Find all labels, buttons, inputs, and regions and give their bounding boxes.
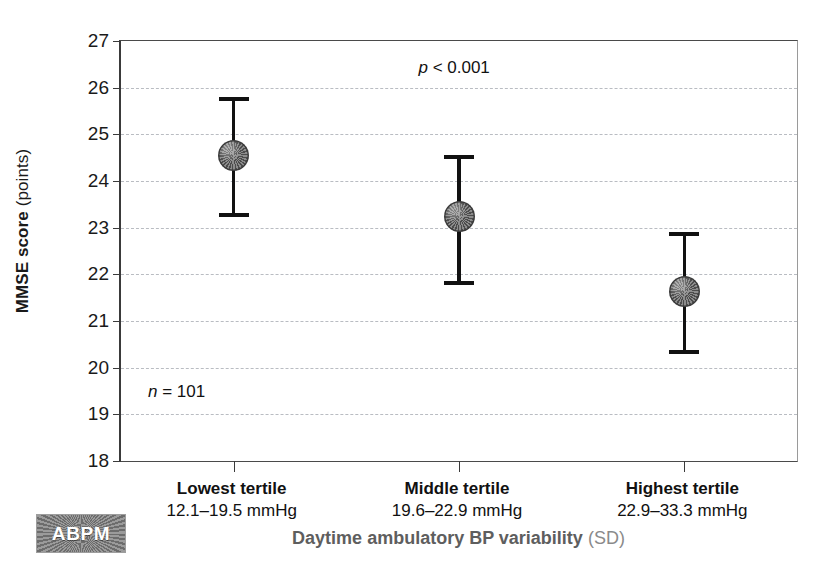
x-axis-category-label: Lowest tertile12.1–19.5 mmHg: [166, 478, 296, 522]
y-axis-title-main: MMSE score: [13, 211, 32, 313]
x-axis-category-label: Highest tertile22.9–33.3 mmHg: [617, 478, 747, 522]
data-point-marker: [218, 140, 249, 171]
x-axis-category-label: Middle tertile19.6–22.9 mmHg: [392, 478, 522, 522]
x-axis-category-range: 19.6–22.9 mmHg: [392, 500, 522, 522]
error-bar-cap-upper: [219, 97, 249, 101]
x-axis-category-range: 12.1–19.5 mmHg: [166, 500, 296, 522]
y-axis-tick-mark: [113, 321, 121, 322]
y-axis-tick-label: 23: [88, 217, 109, 239]
y-axis-tick-mark: [113, 88, 121, 89]
abpm-badge-label: ABPM: [52, 523, 110, 545]
y-axis-tick-mark: [113, 414, 121, 415]
annotation-p-value: p < 0.001: [418, 58, 489, 78]
x-axis-title: Daytime ambulatory BP variability (SD): [119, 528, 798, 549]
y-axis-tick-label: 19: [88, 403, 109, 425]
y-axis-tick-label: 26: [88, 77, 109, 99]
abpm-badge: ABPM: [36, 514, 126, 553]
y-axis-tick-label: 18: [88, 450, 109, 472]
y-axis-title-unit: (points): [13, 149, 32, 207]
y-axis-tick-label: 22: [88, 263, 109, 285]
y-axis-tick-mark: [113, 228, 121, 229]
gridline: [121, 88, 797, 89]
error-bar-cap-lower: [219, 213, 249, 217]
x-axis-tick-mark: [234, 461, 235, 472]
y-axis-tick-mark: [113, 134, 121, 135]
annotation-symbol: n: [148, 382, 162, 401]
x-axis-tick-mark: [684, 461, 685, 472]
chart-figure: MMSE score (points) 27262524232221201918…: [0, 0, 836, 579]
plot-area: 27262524232221201918p < 0.001n = 101: [119, 40, 798, 462]
y-axis-tick-mark: [113, 274, 121, 275]
x-axis-category-name: Highest tertile: [617, 478, 747, 500]
gridline: [121, 321, 797, 322]
data-point-marker: [669, 276, 700, 307]
y-axis-tick-label: 25: [88, 123, 109, 145]
annotation-value: < 0.001: [433, 58, 490, 77]
y-axis-tick-label: 27: [88, 30, 109, 52]
y-axis-tick-label: 21: [88, 310, 109, 332]
x-axis-category-range: 22.9–33.3 mmHg: [617, 500, 747, 522]
y-axis-tick-label: 24: [88, 170, 109, 192]
gridline: [121, 368, 797, 369]
y-axis-title: MMSE score (points): [0, 0, 46, 462]
gridline: [121, 134, 797, 135]
x-axis-title-main: Daytime ambulatory BP variability: [292, 528, 583, 548]
y-axis-tick-mark: [113, 181, 121, 182]
annotation-symbol: p: [418, 58, 432, 77]
error-bar-cap-upper: [669, 232, 699, 236]
y-axis-tick-mark: [113, 461, 121, 462]
y-axis-tick-mark: [113, 41, 121, 42]
y-axis-tick-mark: [113, 368, 121, 369]
data-point-marker: [444, 201, 475, 232]
error-bar-cap-lower: [444, 281, 474, 285]
x-axis-category-name: Lowest tertile: [166, 478, 296, 500]
y-axis-tick-label: 20: [88, 357, 109, 379]
x-axis-category-name: Middle tertile: [392, 478, 522, 500]
x-axis-tick-mark: [459, 461, 460, 472]
error-bar-cap-upper: [444, 155, 474, 159]
annotation-value: = 101: [162, 382, 205, 401]
annotation-sample-size: n = 101: [148, 382, 205, 402]
gridline: [121, 414, 797, 415]
x-axis-title-unit: (SD): [588, 528, 625, 548]
error-bar-cap-lower: [669, 350, 699, 354]
